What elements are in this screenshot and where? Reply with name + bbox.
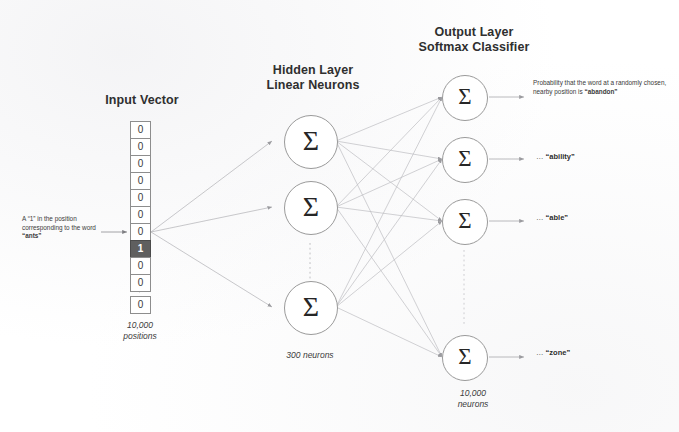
hidden-layer-caption: 300 neurons [262, 350, 358, 361]
output-layer-caption: 10,000 neurons [425, 388, 521, 409]
input-annotation-text: A “1” in the position corresponding to t… [22, 215, 96, 231]
input-cell: 0 [130, 155, 151, 173]
input-cell-last: 0 [130, 296, 151, 314]
input-cell: 0 [130, 206, 151, 224]
input-vector: 0 0 0 0 0 0 0 1 0 0 [130, 122, 151, 292]
output-layer-title-line2: Softmax Classifier [385, 40, 563, 55]
output-layer-title: Output Layer Softmax Classifier [385, 25, 563, 55]
input-cell: 0 [130, 189, 151, 207]
sigma-icon: Σ [303, 191, 319, 223]
output-word-label-able: … “able” [536, 213, 568, 223]
diagram-canvas: Input Vector Hidden Layer Linear Neurons… [0, 0, 679, 432]
sigma-icon: Σ [458, 146, 471, 172]
input-cell: 0 [130, 223, 151, 241]
output-to-label-arrows [489, 97, 524, 357]
output-label-word: “ability” [546, 152, 575, 161]
input-to-hidden-edges [151, 141, 272, 307]
sigma-icon: Σ [303, 125, 319, 157]
output-neuron-2: Σ [442, 137, 488, 183]
hidden-neuron-3: Σ [284, 281, 338, 335]
input-layer-caption: 10,000 positions [100, 320, 180, 341]
input-annotation-word: “ants” [22, 232, 42, 239]
hidden-to-output-edges [336, 97, 442, 357]
hidden-neuron-1: Σ [284, 115, 338, 169]
output-label-prefix: … [536, 213, 546, 222]
input-cell: 0 [130, 138, 151, 156]
output-neuron-4: Σ [442, 335, 488, 381]
output-layer-title-line1: Output Layer [385, 25, 563, 40]
output-annotation-word: “abandon” [585, 88, 618, 95]
input-cell: 0 [130, 172, 151, 190]
output-neuron-1: Σ [442, 75, 488, 121]
hidden-neuron-2: Σ [284, 181, 338, 235]
sigma-icon: Σ [458, 84, 471, 110]
input-layer-title: Input Vector [62, 93, 222, 108]
input-annotation: A “1” in the position corresponding to t… [22, 215, 102, 241]
sigma-icon: Σ [458, 208, 471, 234]
input-cell: 0 [130, 274, 151, 292]
hidden-layer-title-line1: Hidden Layer [238, 63, 388, 78]
hidden-layer-title: Hidden Layer Linear Neurons [238, 63, 388, 93]
sigma-icon: Σ [303, 291, 319, 323]
output-word-label-zone: … “zone” [536, 348, 570, 358]
input-cell-active: 1 [130, 240, 151, 258]
output-word-label-ability: … “ability” [536, 152, 575, 162]
output-neuron-3: Σ [442, 199, 488, 245]
output-label-word: “able” [546, 213, 569, 222]
output-label-prefix: … [536, 348, 546, 357]
sigma-icon: Σ [458, 344, 471, 370]
output-annotation: Probability that the word at a randomly … [533, 79, 669, 96]
output-label-word: “zone” [546, 348, 571, 357]
input-cell: 0 [130, 257, 151, 275]
output-label-prefix: … [536, 152, 546, 161]
hidden-layer-title-line2: Linear Neurons [238, 78, 388, 93]
input-cell: 0 [130, 121, 151, 139]
